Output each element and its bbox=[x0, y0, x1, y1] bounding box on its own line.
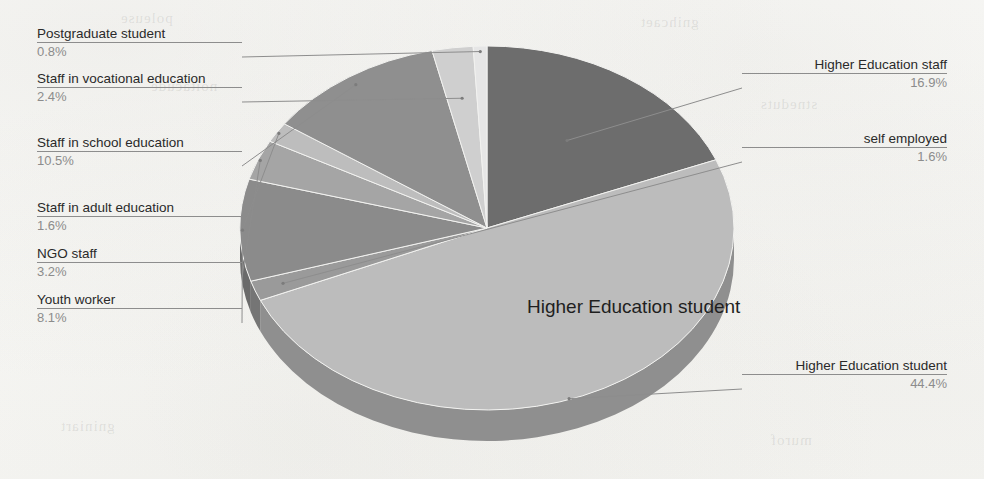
callout-label: NGO staff bbox=[37, 246, 242, 261]
callout-self-employed: self employed 1.6% bbox=[742, 131, 947, 165]
callout-value: 10.5% bbox=[37, 153, 242, 169]
callout-underline bbox=[742, 147, 947, 148]
callout-underline bbox=[37, 216, 242, 217]
callout-value: 16.9% bbox=[742, 75, 947, 91]
callout-underline bbox=[37, 151, 242, 152]
leader-line-anchor-dot bbox=[565, 139, 568, 142]
callout-value: 44.4% bbox=[742, 376, 947, 392]
callout-label: Youth worker bbox=[37, 292, 242, 307]
callout-postgraduate-student: Postgraduate student 0.8% bbox=[37, 26, 242, 60]
slice-center-label: Higher Education student bbox=[527, 296, 740, 318]
leader-line-anchor-dot bbox=[281, 282, 284, 285]
callout-underline bbox=[742, 73, 947, 74]
callout-staff-in-vocational-education: Staff in vocational education 2.4% bbox=[37, 71, 242, 105]
leader-line-anchor-dot bbox=[277, 132, 280, 135]
callout-value: 3.2% bbox=[37, 264, 242, 280]
callout-underline bbox=[742, 374, 947, 375]
callout-higher-education-staff: Higher Education staff 16.9% bbox=[742, 57, 947, 91]
callout-label: Staff in vocational education bbox=[37, 71, 242, 86]
leader-line-anchor-dot bbox=[354, 83, 357, 86]
callout-ngo-staff: NGO staff 3.2% bbox=[37, 246, 242, 280]
leader-line-anchor-dot bbox=[461, 97, 464, 100]
callout-underline bbox=[37, 42, 242, 43]
callout-label: Staff in adult education bbox=[37, 200, 242, 215]
callout-label: self employed bbox=[742, 131, 947, 146]
callout-label: Higher Education staff bbox=[742, 57, 947, 72]
callout-value: 1.6% bbox=[742, 149, 947, 165]
callout-higher-education-student: Higher Education student 44.4% bbox=[742, 358, 947, 392]
callout-staff-in-adult-education: Staff in adult education 1.6% bbox=[37, 200, 242, 234]
leader-line-anchor-dot bbox=[479, 50, 482, 53]
callout-underline bbox=[37, 308, 242, 309]
callout-staff-in-school-education: Staff in school education 10.5% bbox=[37, 135, 242, 169]
callout-label: Staff in school education bbox=[37, 135, 242, 150]
leader-line-anchor-dot bbox=[567, 397, 570, 400]
callout-label: Postgraduate student bbox=[37, 26, 242, 41]
callout-youth-worker: Youth worker 8.1% bbox=[37, 292, 242, 326]
callout-value: 1.6% bbox=[37, 218, 242, 234]
callout-label: Higher Education student bbox=[742, 358, 947, 373]
callout-value: 2.4% bbox=[37, 89, 242, 105]
leader-line-anchor-dot bbox=[259, 159, 262, 162]
callout-value: 0.8% bbox=[37, 44, 242, 60]
callout-underline bbox=[37, 87, 242, 88]
callout-underline bbox=[37, 262, 242, 263]
pie-chart: Higher Education student Postgraduate st… bbox=[0, 0, 984, 479]
callout-value: 8.1% bbox=[37, 310, 242, 326]
